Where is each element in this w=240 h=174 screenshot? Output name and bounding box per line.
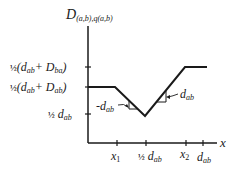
sub: ab (154, 155, 162, 164)
sub: ab (55, 86, 63, 95)
text: + D (35, 80, 55, 94)
y-axis-label-sub: (a,b),q(a,b) (76, 14, 113, 23)
sub: 2 (185, 153, 189, 162)
text: ) (63, 80, 67, 94)
x-tick-label-half-dab: ½ dab (138, 150, 162, 164)
text: ) (63, 60, 67, 74)
arrowhead-right (166, 95, 170, 99)
text: -d (96, 99, 106, 113)
sub: ba (55, 66, 63, 75)
x-tick-label-x1: x1 (111, 150, 120, 164)
x-axis-label: x (220, 136, 226, 149)
frac: ½ (10, 63, 17, 73)
sub: ab (203, 156, 211, 165)
text: x (220, 135, 226, 150)
sub: ab (106, 105, 114, 114)
x-tick-label-x2: x2 (180, 148, 189, 162)
sub: 1 (116, 155, 120, 164)
text: (d (17, 60, 27, 74)
y-tick-label-1: ½(dab+ Dba) (10, 61, 67, 75)
y-axis-label: D(a,b),q(a,b) (66, 8, 113, 23)
text: + D (35, 60, 55, 74)
frac: ½ (138, 152, 145, 162)
text: d (55, 107, 64, 121)
y-tick-label-3: ½ dab (48, 108, 72, 122)
frac: ½ (48, 110, 55, 120)
y-axis-label-main: D (66, 7, 76, 22)
sub: ab (186, 93, 194, 102)
slope-label-left: -dab (96, 100, 114, 114)
slope-label-right: dab (180, 88, 194, 102)
sub: ab (64, 113, 72, 122)
text: (d (17, 80, 27, 94)
x-tick-label-dab: dab (197, 151, 211, 165)
sub: ab (27, 86, 35, 95)
y-tick-label-2: ½(dab+ Dab) (10, 81, 67, 95)
frac: ½ (10, 83, 17, 93)
arrowhead-left (125, 104, 129, 108)
text: d (145, 149, 154, 163)
sub: ab (27, 66, 35, 75)
